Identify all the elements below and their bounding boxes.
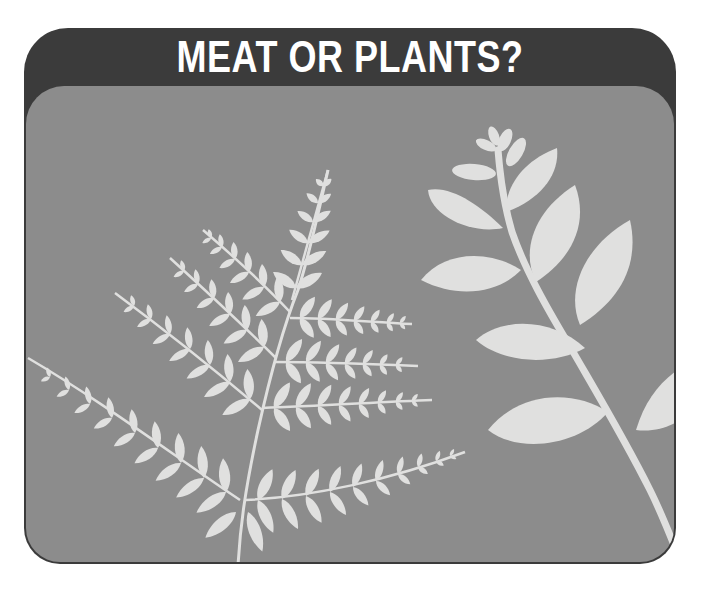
fern-frond-right-1	[290, 294, 412, 340]
fern-frond-right-4	[246, 448, 465, 535]
fern-frond-right-3	[262, 380, 432, 434]
fern-frond-left-4	[28, 358, 240, 517]
quiz-card: MEAT OR PLANTS?	[24, 28, 676, 564]
illustration-panel	[26, 86, 674, 562]
fern-frond-left-3	[115, 293, 262, 419]
fern-icon	[28, 170, 465, 562]
fern-frond-right-2	[275, 336, 418, 386]
plants-illustration	[26, 86, 674, 562]
card-title: MEAT OR PLANTS?	[24, 22, 676, 93]
leaf-branch-icon	[421, 125, 674, 550]
